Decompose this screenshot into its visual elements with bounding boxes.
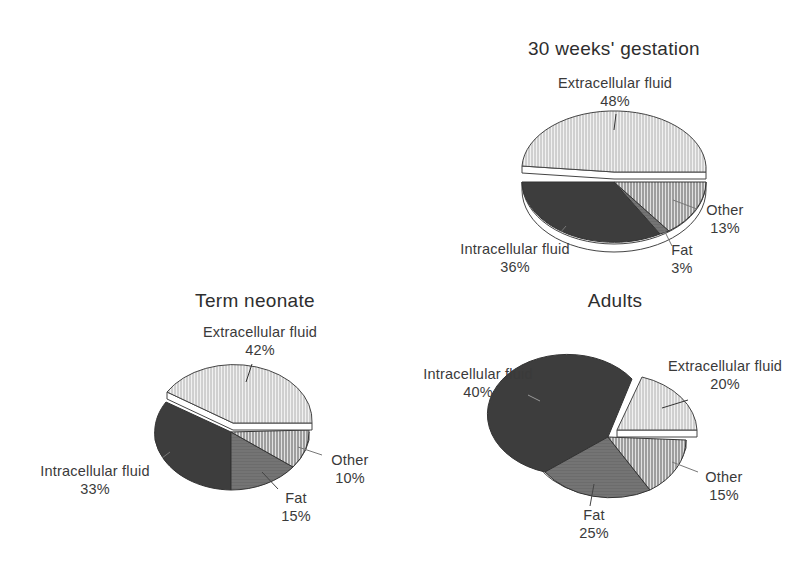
label-name: Intracellular fluid	[408, 365, 548, 383]
label-name: Intracellular fluid	[445, 240, 585, 258]
label-value: 40%	[408, 383, 548, 401]
label-value: 15%	[698, 486, 750, 504]
label-ecf-adults: Extracellular fluid 20%	[650, 357, 800, 393]
chart-title-30-weeks: 30 weeks' gestation	[515, 38, 713, 60]
label-fat-term-neonate: Fat 15%	[274, 489, 318, 525]
label-value: 25%	[572, 524, 616, 542]
label-ecf-30-weeks: Extracellular fluid 48%	[540, 74, 690, 110]
label-icf-30-weeks: Intracellular fluid 36%	[445, 240, 585, 276]
label-name: Other	[698, 468, 750, 486]
label-name: Other	[700, 201, 750, 219]
label-value: 15%	[274, 507, 318, 525]
label-other-adults: Other 15%	[698, 468, 750, 504]
label-value: 20%	[650, 375, 800, 393]
label-fat-30-weeks: Fat 3%	[662, 241, 702, 277]
pie-term-neonate	[155, 364, 322, 490]
label-name: Other	[324, 451, 376, 469]
label-other-term-neonate: Other 10%	[324, 451, 376, 487]
chart-title-adults: Adults	[570, 290, 660, 312]
label-name: Extracellular fluid	[540, 74, 690, 92]
pie-30-weeks	[522, 111, 706, 252]
label-icf-adults: Intracellular fluid 40%	[408, 365, 548, 401]
label-value: 33%	[25, 480, 165, 498]
label-fat-adults: Fat 25%	[572, 506, 616, 542]
label-value: 3%	[662, 259, 702, 277]
chart-title-term-neonate: Term neonate	[180, 290, 330, 312]
label-icf-term-neonate: Intracellular fluid 33%	[25, 462, 165, 498]
label-name: Extracellular fluid	[185, 323, 335, 341]
label-ecf-term-neonate: Extracellular fluid 42%	[185, 323, 335, 359]
label-name: Intracellular fluid	[25, 462, 165, 480]
label-value: 48%	[540, 92, 690, 110]
label-name: Fat	[572, 506, 616, 524]
slice-extracellular-fluid-side	[617, 430, 697, 437]
label-value: 42%	[185, 341, 335, 359]
label-value: 13%	[700, 219, 750, 237]
label-other-30-weeks: Other 13%	[700, 201, 750, 237]
label-name: Fat	[274, 489, 318, 507]
label-name: Extracellular fluid	[650, 357, 800, 375]
label-name: Fat	[662, 241, 702, 259]
label-value: 10%	[324, 469, 376, 487]
label-value: 36%	[445, 258, 585, 276]
slice-extracellular-fluid	[522, 111, 706, 172]
